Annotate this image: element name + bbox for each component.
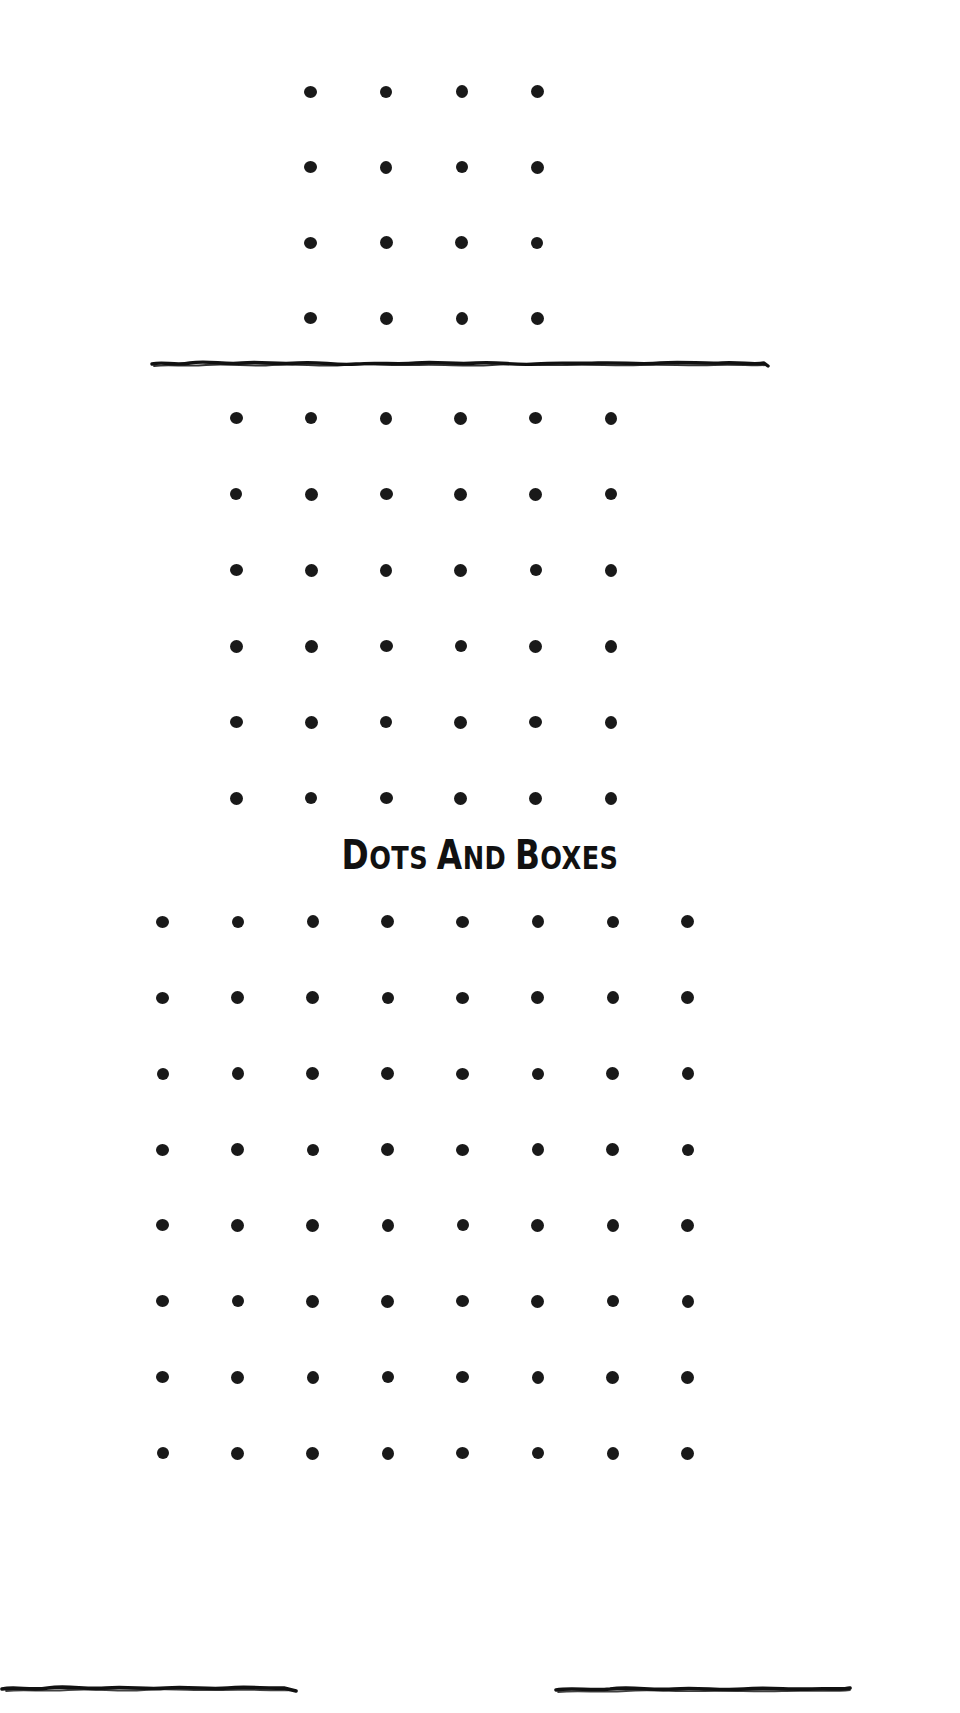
grid-dot[interactable] — [650, 960, 725, 1036]
grid-dot[interactable] — [349, 760, 424, 836]
grid-dot[interactable] — [500, 1415, 575, 1491]
grid-dot[interactable] — [274, 380, 349, 456]
grid-dot[interactable] — [500, 1188, 575, 1264]
grid-dot[interactable] — [125, 1339, 200, 1415]
grid-dot[interactable] — [275, 1415, 350, 1491]
grid-dot[interactable] — [275, 1112, 350, 1188]
grid-dot[interactable] — [424, 380, 499, 456]
grid-dot[interactable] — [275, 1263, 350, 1339]
grid-dot[interactable] — [199, 456, 274, 532]
grid-dot[interactable] — [199, 608, 274, 684]
grid-dot[interactable] — [425, 1339, 500, 1415]
grid-dot[interactable] — [349, 380, 424, 456]
grid-dot[interactable] — [274, 760, 349, 836]
grid-dot[interactable] — [573, 608, 648, 684]
grid-dot[interactable] — [575, 1036, 650, 1112]
grid-dot[interactable] — [200, 1415, 275, 1491]
grid-dot[interactable] — [349, 130, 425, 206]
grid-dot[interactable] — [573, 684, 648, 760]
grid-dot[interactable] — [125, 960, 200, 1036]
grid-dot[interactable] — [349, 608, 424, 684]
grid-dot[interactable] — [275, 1036, 350, 1112]
grid-dot[interactable] — [275, 1188, 350, 1264]
grid-dot[interactable] — [424, 54, 500, 130]
grid-dot[interactable] — [500, 960, 575, 1036]
grid-dot[interactable] — [199, 684, 274, 760]
grid-dot[interactable] — [498, 608, 573, 684]
grid-dot[interactable] — [500, 1339, 575, 1415]
grid-dot[interactable] — [573, 456, 648, 532]
grid-dot[interactable] — [350, 1112, 425, 1188]
grid-dot[interactable] — [573, 532, 648, 608]
grid-dot[interactable] — [575, 1415, 650, 1491]
grid-dot[interactable] — [125, 1112, 200, 1188]
grid-dot[interactable] — [500, 1112, 575, 1188]
grid-dot[interactable] — [350, 1263, 425, 1339]
grid-dot[interactable] — [274, 684, 349, 760]
grid-dot[interactable] — [125, 1036, 200, 1112]
grid-dot[interactable] — [575, 1112, 650, 1188]
grid-dot[interactable] — [424, 608, 499, 684]
grid-dot[interactable] — [275, 960, 350, 1036]
grid-dot[interactable] — [424, 205, 500, 281]
grid-dot[interactable] — [500, 884, 575, 960]
grid-dot[interactable] — [125, 1415, 200, 1491]
grid-dot[interactable] — [650, 1112, 725, 1188]
grid-dot[interactable] — [274, 456, 349, 532]
grid-dot[interactable] — [350, 960, 425, 1036]
grid-dot[interactable] — [200, 1036, 275, 1112]
grid-dot[interactable] — [349, 456, 424, 532]
grid-dot[interactable] — [575, 884, 650, 960]
grid-dot[interactable] — [200, 1339, 275, 1415]
grid-dot[interactable] — [573, 760, 648, 836]
grid-dot[interactable] — [350, 884, 425, 960]
grid-dot[interactable] — [200, 1188, 275, 1264]
grid-dot[interactable] — [125, 884, 200, 960]
grid-dot[interactable] — [424, 130, 500, 206]
grid-dot[interactable] — [199, 532, 274, 608]
game-grid-top[interactable] — [273, 54, 575, 356]
grid-dot[interactable] — [349, 684, 424, 760]
grid-dot[interactable] — [425, 1188, 500, 1264]
grid-dot[interactable] — [275, 1339, 350, 1415]
grid-dot[interactable] — [199, 760, 274, 836]
grid-dot[interactable] — [650, 1415, 725, 1491]
grid-dot[interactable] — [349, 54, 425, 130]
grid-dot[interactable] — [200, 1263, 275, 1339]
grid-dot[interactable] — [650, 1263, 725, 1339]
grid-dot[interactable] — [200, 884, 275, 960]
grid-dot[interactable] — [424, 532, 499, 608]
grid-dot[interactable] — [650, 1188, 725, 1264]
game-grid-bottom[interactable] — [125, 884, 725, 1491]
grid-dot[interactable] — [500, 1263, 575, 1339]
grid-dot[interactable] — [498, 760, 573, 836]
grid-dot[interactable] — [575, 1263, 650, 1339]
grid-dot[interactable] — [125, 1263, 200, 1339]
grid-dot[interactable] — [425, 1112, 500, 1188]
grid-dot[interactable] — [273, 130, 349, 206]
grid-dot[interactable] — [425, 1263, 500, 1339]
grid-dot[interactable] — [500, 1036, 575, 1112]
grid-dot[interactable] — [200, 1112, 275, 1188]
grid-dot[interactable] — [650, 884, 725, 960]
grid-dot[interactable] — [500, 54, 576, 130]
game-grid-middle[interactable] — [199, 380, 648, 836]
grid-dot[interactable] — [425, 960, 500, 1036]
grid-dot[interactable] — [575, 1188, 650, 1264]
grid-dot[interactable] — [498, 456, 573, 532]
grid-dot[interactable] — [200, 960, 275, 1036]
grid-dot[interactable] — [273, 54, 349, 130]
grid-dot[interactable] — [274, 608, 349, 684]
grid-dot[interactable] — [425, 884, 500, 960]
grid-dot[interactable] — [350, 1339, 425, 1415]
grid-dot[interactable] — [575, 1339, 650, 1415]
grid-dot[interactable] — [350, 1415, 425, 1491]
grid-dot[interactable] — [498, 380, 573, 456]
grid-dot[interactable] — [498, 684, 573, 760]
grid-dot[interactable] — [425, 1036, 500, 1112]
grid-dot[interactable] — [650, 1339, 725, 1415]
grid-dot[interactable] — [575, 960, 650, 1036]
grid-dot[interactable] — [125, 1188, 200, 1264]
grid-dot[interactable] — [424, 456, 499, 532]
grid-dot[interactable] — [425, 1415, 500, 1491]
